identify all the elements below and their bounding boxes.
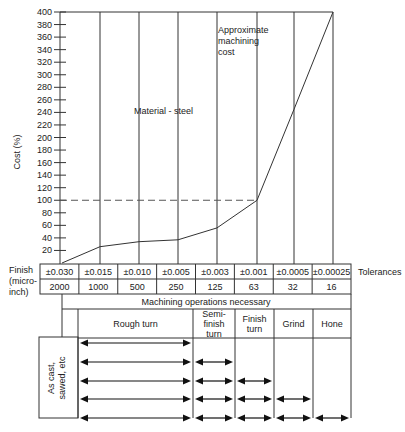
operation-header: Grind [282,319,304,329]
approx-cost-label-2: machining [218,36,259,46]
operation-header: Hone [321,319,343,329]
tolerance-cell: ±0.030 [46,267,73,277]
finish-cell: 125 [207,282,222,292]
y-tick-label: 340 [37,45,52,55]
operation-header: Rough turn [113,319,158,329]
operation-header: turn [206,329,222,339]
as-cast-label-2: sawed, etc [57,356,67,400]
ops-header: Machining operations necessary [141,297,271,307]
y-tick-label: 260 [37,95,52,105]
finish-label-1: Finish [9,265,33,275]
material-label: Material - steel [134,106,193,116]
y-tick-label: 240 [37,107,52,117]
operation-arrows [80,340,349,422]
finish-cell: 500 [130,282,145,292]
vertical-gridlines [100,12,333,264]
y-tick-label: 280 [37,82,52,92]
tolerance-cell: ±0.010 [123,267,150,277]
operation-header: Finish [242,314,266,324]
y-tick-label: 80 [42,208,52,218]
y-axis-title: Cost (%) [12,134,22,169]
y-tick-label: 380 [37,20,52,30]
finish-cell: 250 [169,282,184,292]
tolerance-cell: ±0.015 [85,267,112,277]
y-tick-label: 180 [37,145,52,155]
finish-cell: 32 [288,282,298,292]
y-tick-label: 20 [42,245,52,255]
tolerance-cell: ±0.0005 [276,267,308,277]
y-axis: 2040608010012014016018020022024026028030… [37,7,66,264]
y-tick-label: 300 [37,70,52,80]
tolerance-table: ±0.030±0.015±0.010±0.005±0.003±0.001±0.0… [40,264,351,294]
y-tick-label: 40 [42,233,52,243]
y-tick-label: 360 [37,32,52,42]
operation-header: turn [247,324,263,334]
y-tick-label: 60 [42,220,52,230]
tolerance-cell: ±0.003 [201,267,228,277]
y-tick-label: 200 [37,133,52,143]
finish-cell: 2000 [49,282,69,292]
finish-cell: 16 [327,282,337,292]
y-tick-label: 160 [37,158,52,168]
finish-label-3: inch) [9,287,29,297]
y-tick-label: 220 [37,120,52,130]
cost-curve [62,12,333,263]
y-tick-label: 320 [37,57,52,67]
finish-label-2: (micro- [9,276,37,286]
tolerance-cell: ±0.005 [162,267,189,277]
tolerance-cell: ±0.00025 [313,267,350,277]
as-cast-label-1: As cast, [46,362,56,394]
operation-header: finish [203,319,224,329]
y-tick-label: 400 [37,7,52,17]
finish-cell: 1000 [88,282,108,292]
y-tick-label: 140 [37,170,52,180]
y-tick-label: 120 [37,183,52,193]
tolerances-label: Tolerances [358,267,402,277]
operation-header: Semi- [202,309,226,319]
tolerance-cell: ±0.001 [240,267,267,277]
approx-cost-label-3: cost [218,47,235,57]
finish-cell: 63 [249,282,259,292]
y-tick-label: 100 [37,195,52,205]
cost-vs-tolerance-chart: 2040608010012014016018020022024026028030… [0,0,405,432]
approx-cost-label-1: Approximate [218,25,269,35]
